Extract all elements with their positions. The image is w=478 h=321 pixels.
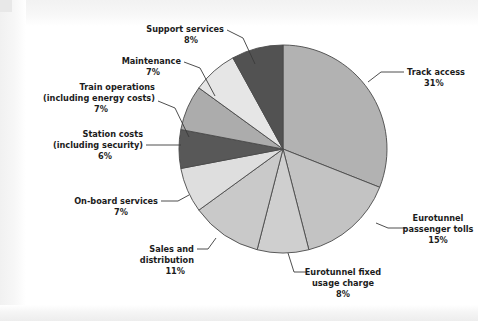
pie-label-track-access-line1: Track access [407, 67, 465, 77]
figure-canvas: Track access 31% Eurotunnel passenger to… [0, 0, 478, 321]
leader-line-eurotunnel-passenger-tolls [376, 223, 406, 228]
pie-label-station-costs-line3: 6% [98, 151, 112, 161]
pie-label-eurotunnel-fixed-usage-charge-line2: usage charge [312, 278, 375, 288]
pie-label-support-services-line2: 8% [184, 35, 198, 45]
pie-label-train-operations-line2: (including energy costs) [43, 93, 155, 103]
pie-chart: Track access 31% Eurotunnel passenger to… [0, 0, 478, 321]
pie-label-track-access-line2: 31% [424, 78, 444, 88]
pie-label-sales-and-distribution-line1: Sales and [149, 244, 194, 254]
pie-label-sales-and-distribution-line2: distribution [140, 255, 194, 265]
pie-label-sales-and-distribution: Sales and distribution 11% [140, 244, 194, 276]
leader-line-track-access [368, 72, 404, 82]
pie-label-eurotunnel-passenger-tolls-line2: passenger tolls [403, 224, 474, 234]
pie-label-train-operations-line3: 7% [94, 104, 108, 114]
pie-label-maintenance: Maintenance 7% [122, 56, 182, 77]
pie-label-maintenance-line1: Maintenance [122, 56, 182, 66]
pie-label-station-costs: Station costs (including security) 6% [53, 129, 143, 161]
leader-line-on-board-services [161, 195, 189, 201]
pie-label-on-board-services-line1: On-board services [74, 196, 158, 206]
pie-label-eurotunnel-fixed-usage-charge: Eurotunnel fixed usage charge 8% [305, 267, 382, 299]
leader-line-sales-and-distribution [197, 238, 216, 249]
pie-label-eurotunnel-passenger-tolls-line1: Eurotunnel [413, 213, 464, 223]
pie-label-eurotunnel-fixed-usage-charge-line3: 8% [336, 289, 350, 299]
pie-slices-group [179, 45, 387, 253]
pie-label-station-costs-line2: (including security) [53, 140, 143, 150]
pie-label-support-services-line1: Support services [146, 24, 224, 34]
pie-label-on-board-services: On-board services 7% [74, 196, 158, 217]
pie-label-on-board-services-line2: 7% [114, 207, 128, 217]
pie-label-station-costs-line1: Station costs [83, 129, 144, 139]
pie-label-sales-and-distribution-line3: 11% [165, 266, 185, 276]
leader-line-eurotunnel-fixed-usage-charge [288, 253, 306, 272]
pie-label-maintenance-line2: 7% [146, 67, 160, 77]
pie-label-track-access: Track access 31% [407, 67, 465, 88]
pie-label-eurotunnel-passenger-tolls: Eurotunnel passenger tolls 15% [403, 213, 474, 245]
pie-label-train-operations-line1: Train operations [80, 82, 156, 92]
pie-label-eurotunnel-fixed-usage-charge-line1: Eurotunnel fixed [305, 267, 382, 277]
pie-label-eurotunnel-passenger-tolls-line3: 15% [428, 235, 448, 245]
pie-label-support-services: Support services 8% [146, 24, 224, 45]
pie-label-train-operations: Train operations (including energy costs… [43, 82, 155, 114]
